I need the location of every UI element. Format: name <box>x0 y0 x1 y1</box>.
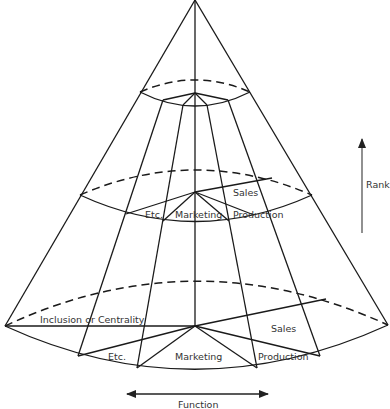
function-axis-label: Function <box>178 399 218 409</box>
radial-boundary-2 <box>137 105 183 368</box>
radial-boundary-4 <box>228 100 320 356</box>
rank-axis-label: Rank <box>366 179 390 190</box>
bottom-label-production: Production <box>258 351 309 362</box>
bottom-spoke-sales <box>195 299 326 326</box>
function-axis: Function <box>127 394 268 409</box>
radial-boundary-3 <box>207 105 257 368</box>
rank-axis: Rank <box>362 139 390 233</box>
top-spoke <box>163 93 195 100</box>
inclusion-centrality-label: Inclusion or Centrality <box>40 314 145 325</box>
bottom-ellipse-front <box>5 325 388 369</box>
top-spoke <box>195 93 228 100</box>
bottom-label-marketing: Marketing <box>175 351 222 362</box>
cone-left-edge <box>5 0 195 326</box>
organization-cone-diagram: Sales Etc. Marketing Production Inclusio… <box>0 0 390 409</box>
middle-label-sales: Sales <box>233 187 258 198</box>
middle-label-etc: Etc. <box>145 209 163 220</box>
bottom-level-section: Inclusion or Centrality Sales Etc. Marke… <box>5 281 388 369</box>
cone-outline <box>5 0 388 326</box>
bottom-label-etc: Etc. <box>108 351 126 362</box>
middle-label-marketing: Marketing <box>175 209 222 220</box>
middle-level-section: Sales Etc. Marketing Production <box>80 170 312 222</box>
middle-label-production: Production <box>233 209 284 220</box>
bottom-label-sales: Sales <box>271 323 296 334</box>
